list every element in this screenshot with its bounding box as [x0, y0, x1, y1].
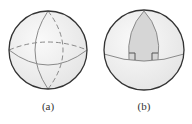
- figure-b: (b): [96, 0, 192, 124]
- figure-b-label: (b): [96, 100, 192, 112]
- figure-a-label: (a): [0, 100, 96, 112]
- figure-a: (a): [0, 0, 96, 124]
